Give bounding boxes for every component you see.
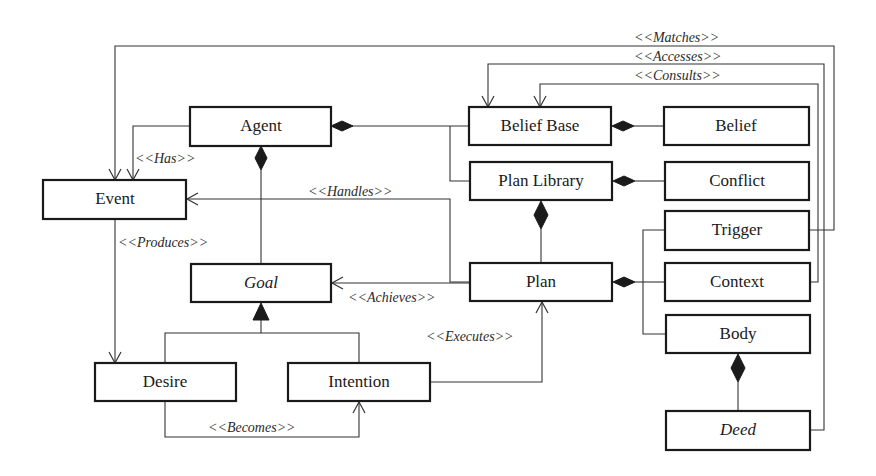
consults-label: <<Consults>> — [634, 68, 721, 83]
class-belief-base[interactable]: Belief Base — [469, 107, 611, 145]
produces-label: <<Produces>> — [118, 235, 208, 250]
agent-composition-diamond-bottom — [255, 146, 267, 170]
class-goal-label: Goal — [244, 273, 278, 292]
agent-composition-diamond-right — [331, 121, 353, 131]
plan-composition-diamond — [613, 277, 635, 287]
class-deed[interactable]: Deed — [666, 411, 810, 450]
matches-label: <<Matches>> — [634, 30, 719, 45]
class-conflict-label: Conflict — [709, 171, 765, 190]
class-goal[interactable]: Goal — [191, 264, 331, 302]
class-plan-library-label: Plan Library — [498, 171, 584, 190]
class-deed-label: Deed — [719, 420, 756, 439]
class-trigger[interactable]: Trigger — [665, 211, 809, 250]
class-plan-label: Plan — [526, 272, 557, 291]
achieves-label: <<Achieves>> — [348, 290, 436, 305]
class-intention-label: Intention — [328, 372, 390, 391]
class-desire-label: Desire — [143, 372, 187, 391]
class-intention[interactable]: Intention — [288, 363, 430, 401]
class-agent[interactable]: Agent — [190, 107, 331, 146]
executes-label: <<Executes>> — [426, 329, 514, 344]
body-composition-diamond — [731, 354, 745, 382]
generalization-connector — [165, 333, 359, 363]
agent-planlibrary-connector — [450, 126, 470, 181]
class-event[interactable]: Event — [43, 180, 186, 219]
class-plan[interactable]: Plan — [470, 263, 612, 301]
class-context-label: Context — [710, 272, 764, 291]
handles-label: <<Handles>> — [308, 184, 392, 199]
beliefbase-composition-diamond — [612, 121, 634, 131]
planlibrary-composition-diamond-right — [613, 176, 635, 186]
generalization-triangle — [253, 303, 269, 320]
class-event-label: Event — [95, 189, 135, 208]
class-body[interactable]: Body — [666, 315, 810, 353]
has-label: <<Has>> — [135, 151, 195, 166]
class-trigger-label: Trigger — [712, 220, 763, 239]
accesses-label: <<Accesses>> — [634, 49, 722, 64]
class-agent-label: Agent — [240, 116, 282, 135]
class-belief-base-label: Belief Base — [501, 116, 580, 135]
class-context[interactable]: Context — [665, 263, 810, 301]
class-belief-label: Belief — [715, 116, 757, 135]
class-plan-library[interactable]: Plan Library — [470, 162, 612, 200]
class-conflict[interactable]: Conflict — [665, 162, 809, 200]
becomes-label: <<Becomes>> — [208, 420, 296, 435]
class-desire[interactable]: Desire — [95, 363, 236, 401]
class-belief[interactable]: Belief — [664, 107, 809, 145]
uml-class-diagram: <<Matches>> <<Accesses>> <<Consults>> <<… — [0, 0, 876, 476]
planlibrary-composition-diamond-bottom — [534, 201, 548, 229]
class-body-label: Body — [720, 324, 757, 343]
